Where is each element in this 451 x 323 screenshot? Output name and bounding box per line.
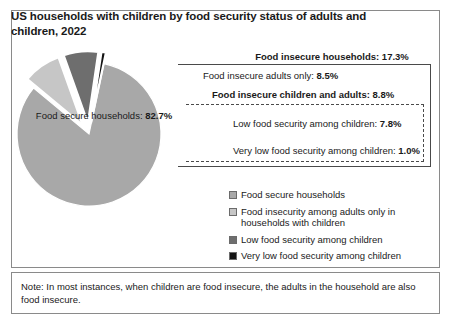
legend-swatch-icon [229,252,237,260]
callout-very-low-security: Very low food security among children: 1… [233,145,433,156]
callout-insecure-total: Food insecure households: 17.3% [232,51,432,62]
callout-adults-only-value: 8.5% [317,70,339,81]
legend-item-label: Food insecurity among adults only in hou… [241,206,434,229]
callout-low-security-label: Low food security among children: [233,118,377,129]
legend-item-label: Low food security among children [241,234,434,246]
chart-legend: Food secure householdsFood insecurity am… [229,189,434,267]
callout-children-and-adults-value: 8.8% [372,89,394,100]
callout-adults-only: Food insecure adults only: 8.5% [203,70,433,81]
legend-item: Food secure households [229,189,434,201]
note-text: Note: In most instances, when children a… [21,281,431,307]
callout-children-and-adults: Food insecure children and adults: 8.8% [212,89,427,100]
note-panel: Note: In most instances, when children a… [11,272,440,314]
legend-item-label: Food secure households [241,189,434,201]
legend-item: Food insecurity among adults only in hou… [229,206,434,229]
legend-swatch-icon [229,208,237,216]
legend-swatch-icon [229,191,237,199]
callout-low-security-value: 7.8% [380,118,402,129]
pie-slice-label-value: 82.7% [145,110,172,121]
legend-item: Very low food security among children [229,250,434,262]
pie-slice-label-food-secure: Food secure households: 82.7% [24,110,184,121]
chart-figure: US households with children by food secu… [0,0,451,323]
legend-item: Low food security among children [229,234,434,246]
chart-title: US households with children by food secu… [11,9,401,39]
callout-very-low-security-label: Very low food security among children: [233,145,396,156]
legend-swatch-icon [229,236,237,244]
callout-adults-only-label: Food insecure adults only: [203,70,314,81]
callout-low-security: Low food security among children: 7.8% [233,118,428,129]
callout-very-low-security-value: 1.0% [398,145,420,156]
callout-children-and-adults-label: Food insecure children and adults: [212,89,370,100]
pie-slice-label-text: Food secure households: [36,110,143,121]
legend-item-label: Very low food security among children [241,250,434,262]
